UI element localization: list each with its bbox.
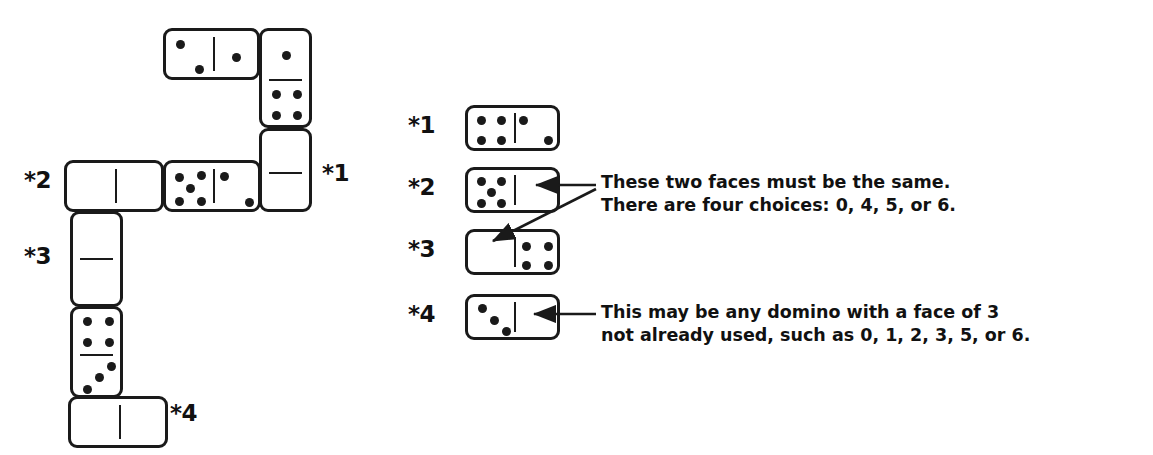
pip: [487, 188, 496, 197]
legend-domino-3-blank: [465, 294, 560, 340]
pip: [478, 304, 487, 313]
pip: [272, 111, 281, 120]
chain-domino-star4-blank: [68, 396, 168, 448]
domino-divider: [269, 172, 303, 174]
callout-same-faces-line1: These two faces must be the same.: [601, 170, 950, 195]
domino-divider: [514, 237, 516, 267]
figure-canvas: *1 *2 *3 *4 *1 *2 *3: [0, 0, 1153, 455]
pip: [83, 317, 92, 326]
pip: [497, 136, 506, 145]
pip: [105, 317, 114, 326]
pip: [197, 171, 206, 180]
domino-divider: [80, 258, 114, 260]
domino-divider: [514, 302, 516, 332]
pip: [522, 261, 531, 270]
pip: [175, 173, 184, 182]
pip: [107, 362, 116, 371]
callout-same-faces-line2: There are four choices: 0, 4, 5, or 6.: [601, 193, 956, 218]
chain-domino-star2-blank: [64, 160, 164, 212]
pip: [176, 40, 185, 49]
pip: [95, 373, 104, 382]
domino-divider: [119, 405, 121, 440]
pip: [477, 116, 486, 125]
legend-label-star4: *4: [408, 301, 435, 327]
pip: [497, 177, 506, 186]
pip: [83, 385, 92, 394]
pip: [232, 53, 241, 62]
pip: [477, 136, 486, 145]
chain-domino-2-1: [163, 28, 260, 80]
domino-divider: [514, 175, 516, 205]
chain-domino-star3-blank: [70, 211, 123, 307]
pip: [544, 242, 553, 251]
pip: [497, 199, 506, 208]
pip: [220, 172, 229, 181]
chain-label-star2: *2: [24, 167, 51, 193]
pip: [477, 199, 486, 208]
pip: [195, 65, 204, 74]
pip: [502, 327, 511, 336]
callout-any-domino-line1: This may be any domino with a face of 3: [601, 300, 999, 325]
domino-divider: [80, 354, 114, 356]
legend-domino-blank-4: [465, 229, 560, 275]
pip: [519, 116, 528, 125]
pip: [544, 136, 553, 145]
domino-divider: [514, 113, 516, 143]
callout-any-domino-line2: not already used, such as 0, 1, 2, 3, 5,…: [601, 323, 1030, 348]
legend-domino-4-2: [465, 105, 560, 151]
domino-divider: [115, 169, 117, 204]
pip: [83, 338, 92, 347]
pip: [490, 316, 499, 325]
legend-label-star3: *3: [408, 236, 435, 262]
pip: [497, 116, 506, 125]
legend-label-star2: *2: [408, 174, 435, 200]
pip: [175, 197, 184, 206]
pip: [544, 261, 553, 270]
legend-domino-5-blank: [465, 167, 560, 213]
chain-label-star4: *4: [170, 400, 197, 426]
domino-divider: [213, 169, 215, 204]
domino-divider: [269, 79, 303, 81]
pip: [282, 51, 291, 60]
legend-label-star1: *1: [408, 112, 435, 138]
domino-divider: [213, 37, 215, 72]
pip: [477, 177, 486, 186]
chain-label-star1: *1: [322, 160, 349, 186]
pip: [197, 197, 206, 206]
pip: [293, 111, 302, 120]
chain-domino-star1-blank: [259, 128, 312, 212]
pip: [522, 242, 531, 251]
chain-domino-1-4: [259, 28, 312, 128]
pip: [245, 198, 254, 207]
chain-domino-4-3: [70, 306, 123, 398]
chain-label-star3: *3: [24, 243, 51, 269]
chain-domino-5-2: [163, 160, 261, 212]
pip: [272, 90, 281, 99]
pip: [293, 90, 302, 99]
pip: [186, 184, 195, 193]
pip: [105, 338, 114, 347]
